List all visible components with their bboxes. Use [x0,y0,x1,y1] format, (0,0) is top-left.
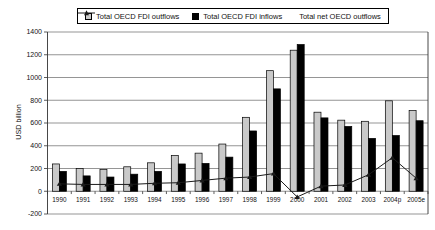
chart-plot-area: -200020040060080010001200140019901991199… [0,0,435,230]
bar-inflows [226,157,233,191]
y-tick-label: 1000 [26,74,42,81]
bar-outflows [171,155,178,191]
bar-outflows [195,153,202,191]
bar-outflows [52,164,59,191]
fdi-flows-chart: Total OECD FDI outflows Total OECD FDI i… [0,0,435,230]
bar-inflows [297,45,304,192]
x-tick-label: 2002 [338,196,353,203]
x-tick-label: 1999 [266,196,281,203]
bar-inflows [369,138,376,191]
bar-outflows [338,120,345,191]
x-tick-label: 1996 [195,196,210,203]
bar-outflows [124,167,131,191]
bar-inflows [345,126,352,191]
x-tick-label: 1992 [100,196,115,203]
x-tick-label: 1998 [243,196,258,203]
x-tick-label: 2005e [407,196,425,203]
y-tick-label: -200 [28,210,42,217]
bar-outflows [314,112,321,191]
bar-inflows [416,121,423,192]
bar-inflows [178,164,185,191]
x-tick-label: 1997 [219,196,234,203]
y-tick-label: 400 [30,142,42,149]
x-tick-label: 1994 [147,196,162,203]
y-tick-label: 0 [38,188,42,195]
x-tick-label: 1991 [76,196,91,203]
bar-outflows [385,101,392,191]
x-tick-label: 2004p [383,196,401,204]
x-tick-label: 1993 [124,196,139,203]
x-tick-label: 2001 [314,196,329,203]
bar-inflows [273,89,280,191]
bar-inflows [131,174,138,191]
bar-outflows [76,169,83,192]
bar-inflows [155,171,162,191]
bar-outflows [148,163,155,191]
bar-inflows [83,176,90,191]
y-tick-label: 600 [30,119,42,126]
bar-inflows [321,118,328,191]
x-tick-label: 1990 [52,196,67,203]
y-tick-label: 1200 [26,51,42,58]
y-tick-label: 1400 [26,28,42,35]
x-tick-label: 2003 [361,196,376,203]
y-tick-label: 800 [30,97,42,104]
y-tick-label: 200 [30,165,42,172]
x-tick-label: 1995 [171,196,186,203]
bar-outflows [219,144,226,191]
bar-outflows [100,170,107,192]
bar-outflows [362,121,369,191]
bar-outflows [290,50,297,191]
bar-inflows [250,131,257,191]
bar-outflows [243,117,250,191]
bar-inflows [59,171,66,191]
bar-inflows [202,163,209,191]
